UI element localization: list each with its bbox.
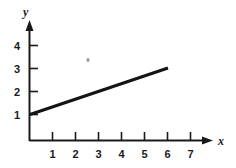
- x-axis-label: x: [217, 134, 224, 148]
- y-tick-label: 3: [14, 63, 20, 75]
- data-series-line: [30, 68, 168, 115]
- y-tick-label: 1: [14, 109, 20, 121]
- x-tick-label: 2: [72, 148, 78, 160]
- graph-canvas: y x 4 3 2 1 1 2 3 4: [0, 0, 236, 168]
- line-graph-figure: y x 4 3 2 1 1 2 3 4: [0, 0, 236, 168]
- y-axis-label: y: [21, 5, 29, 19]
- x-tick-label: 5: [141, 148, 147, 160]
- x-tick-label: 3: [95, 148, 101, 160]
- x-axis-arrowhead: [202, 137, 213, 145]
- y-tick-label: 2: [14, 86, 20, 98]
- x-tick-label: 4: [118, 148, 125, 160]
- y-tick-label: 4: [14, 40, 21, 52]
- y-axis-arrowhead: [26, 20, 34, 31]
- x-tick-label: 1: [49, 148, 55, 160]
- stray-mark: [86, 58, 89, 62]
- x-tick-label: 6: [164, 148, 170, 160]
- x-tick-group: 1 2 3 4 5 6 7: [49, 132, 193, 160]
- y-tick-group: 4 3 2 1: [14, 40, 38, 121]
- x-tick-label: 7: [187, 148, 193, 160]
